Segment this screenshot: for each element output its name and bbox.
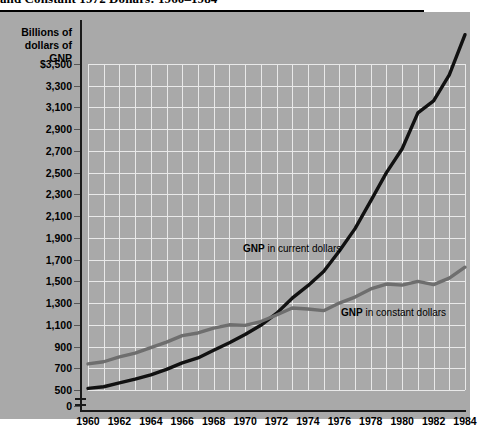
y-axis-tick-mark <box>74 173 80 174</box>
gridline-vertical <box>324 64 325 390</box>
gridline-vertical <box>371 64 372 390</box>
gridline-vertical <box>386 64 387 390</box>
gridline-vertical <box>245 64 246 390</box>
y-axis-tick-mark <box>74 216 80 217</box>
axis-break-mark <box>75 404 86 406</box>
figure: and Constant 1972 Dollars: 1960–1984 $3,… <box>0 0 502 433</box>
y-axis-tick-label: 500 <box>2 385 72 395</box>
y-axis-tick-label: 2,300 <box>2 189 72 199</box>
y-axis-tick-label: 700 <box>2 363 72 373</box>
x-axis-line <box>80 410 466 412</box>
y-axis-tick-mark <box>74 107 80 108</box>
y-axis-tick-mark <box>74 86 80 87</box>
y-axis-tick-label: 1,700 <box>2 255 72 265</box>
gridline-vertical <box>229 64 230 390</box>
gridline-vertical <box>261 64 262 390</box>
y-axis-caption: Billions of dollars of GNP <box>2 26 72 65</box>
series-label-current-bold: GNP <box>243 243 265 254</box>
gridline-horizontal <box>88 390 465 391</box>
y-axis-tick-mark <box>74 281 80 282</box>
gridline-vertical <box>339 64 340 390</box>
gridline-vertical <box>119 64 120 390</box>
gridline-vertical <box>418 64 419 390</box>
y-axis-tick-mark <box>74 325 80 326</box>
gridline-vertical <box>182 64 183 390</box>
y-axis-caption-line-2: dollars of GNP <box>2 39 72 65</box>
y-axis-tick-mark <box>74 390 80 391</box>
y-axis-tick-label: 1,900 <box>2 233 72 243</box>
gridline-vertical <box>465 64 466 390</box>
y-axis-tick-label: 2,700 <box>2 146 72 156</box>
series-label-constant-dollars: GNP in constant dollars <box>341 307 446 318</box>
y-axis-tick-label: 2,500 <box>2 168 72 178</box>
gridline-vertical <box>308 64 309 390</box>
gridline-vertical <box>292 64 293 390</box>
gridline-vertical <box>434 64 435 390</box>
y-axis-tick-mark <box>74 303 80 304</box>
y-axis-tick-label: 2,900 <box>2 124 72 134</box>
y-axis-tick-mark <box>74 406 80 407</box>
y-axis-tick-label: 3,100 <box>2 102 72 112</box>
y-axis-tick-label: 2,100 <box>2 211 72 221</box>
gridline-vertical <box>135 64 136 390</box>
y-axis-tick-mark <box>74 151 80 152</box>
series-label-current-dollars: GNP in current dollars <box>243 243 341 254</box>
y-axis-tick-label: 0 <box>2 401 72 411</box>
gridline-vertical <box>355 64 356 390</box>
gridline-vertical <box>104 64 105 390</box>
x-axis-tick-label: 1984 <box>445 415 485 427</box>
y-axis-tick-mark <box>74 260 80 261</box>
y-axis-tick-mark <box>74 347 80 348</box>
gridline-vertical <box>277 64 278 390</box>
gridline-vertical <box>214 64 215 390</box>
gridline-vertical <box>402 64 403 390</box>
y-axis-tick-mark <box>74 64 80 65</box>
y-axis-line <box>80 20 82 412</box>
y-axis-caption-line-1: Billions of <box>2 26 72 39</box>
series-label-constant-bold: GNP <box>341 307 363 318</box>
y-axis-tick-label: 1,500 <box>2 276 72 286</box>
y-axis-tick-label: 1,300 <box>2 298 72 308</box>
plot-area <box>88 64 465 390</box>
y-axis-tick-label: 900 <box>2 342 72 352</box>
gridline-vertical <box>449 64 450 390</box>
y-axis-tick-mark <box>74 194 80 195</box>
y-axis-tick-label: 3,300 <box>2 81 72 91</box>
axis-break-mark <box>75 398 86 400</box>
y-axis-tick-mark <box>74 238 80 239</box>
gridline-vertical <box>151 64 152 390</box>
gridline-vertical <box>88 64 89 390</box>
y-axis-tick-mark <box>74 368 80 369</box>
gridline-vertical <box>167 64 168 390</box>
series-label-constant-rest: in constant dollars <box>363 307 446 318</box>
y-axis-tick-mark <box>74 129 80 130</box>
gridline-vertical <box>198 64 199 390</box>
y-axis-tick-label: 1,100 <box>2 320 72 330</box>
series-label-current-rest: in current dollars <box>265 243 342 254</box>
